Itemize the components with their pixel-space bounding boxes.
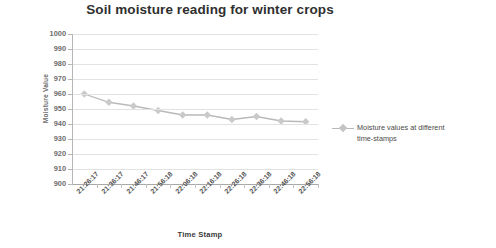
x-axis-tick [269, 184, 270, 188]
x-axis-tick [195, 184, 196, 188]
x-axis-tick [97, 184, 98, 188]
x-axis-tick [244, 184, 245, 188]
y-axis-tick [68, 49, 73, 50]
x-axis-tick [220, 184, 221, 188]
y-axis-tick-label: 900 [32, 179, 66, 188]
gridline [72, 139, 318, 140]
y-axis-tick-label: 1000 [32, 29, 66, 38]
y-axis-tick-label: 960 [32, 89, 66, 98]
y-axis-tick [68, 169, 73, 170]
x-axis-tick [293, 184, 294, 188]
y-axis-tick-label: 990 [32, 44, 66, 53]
y-axis-tick [68, 109, 73, 110]
x-axis-tick [170, 184, 171, 188]
gridline [72, 64, 318, 65]
y-axis-tick [68, 34, 73, 35]
gridline [72, 79, 318, 80]
gridline [72, 169, 318, 170]
y-axis-tick-label: 950 [32, 104, 66, 113]
y-axis-tick [68, 64, 73, 65]
y-axis-tick [68, 154, 73, 155]
y-axis-tick-label: 920 [32, 149, 66, 158]
legend-marker-icon [332, 123, 354, 135]
gridline [72, 124, 318, 125]
x-axis-tick [146, 184, 147, 188]
data-point-marker [228, 116, 235, 123]
y-axis-tick-labels: Moisture Value 1000990980970960950940930… [28, 0, 66, 248]
x-axis-tick [318, 184, 319, 188]
gridline [72, 34, 318, 35]
chart-container: Soil moisture reading for winter crops M… [0, 0, 496, 248]
y-axis-tick-label: 980 [32, 59, 66, 68]
y-axis-tick-label: 910 [32, 164, 66, 173]
gridline [72, 109, 318, 110]
y-axis-tick [68, 184, 73, 185]
legend-label: Moisture values at different time-stamps [354, 122, 444, 144]
y-axis-tick [68, 139, 73, 140]
x-axis-tick [121, 184, 122, 188]
y-axis-tick [68, 124, 73, 125]
data-point-marker [179, 111, 186, 118]
gridline [72, 49, 318, 50]
y-axis-tick-label: 930 [32, 134, 66, 143]
y-axis-tick-label: 940 [32, 119, 66, 128]
data-point-marker [253, 113, 260, 120]
gridline [72, 154, 318, 155]
plot-area [72, 34, 318, 184]
data-point-marker [154, 107, 161, 114]
x-axis-title: Time Stamp [110, 230, 290, 239]
data-point-marker [105, 99, 112, 106]
y-axis-tick-label: 970 [32, 74, 66, 83]
data-point-marker [204, 111, 211, 118]
legend: Moisture values at different time-stamps [332, 122, 492, 144]
gridline [72, 94, 318, 95]
y-axis-tick [68, 94, 73, 95]
legend-label-line1: Moisture values at different [357, 122, 444, 133]
y-axis-tick [68, 79, 73, 80]
legend-label-line2: time-stamps [357, 133, 444, 144]
